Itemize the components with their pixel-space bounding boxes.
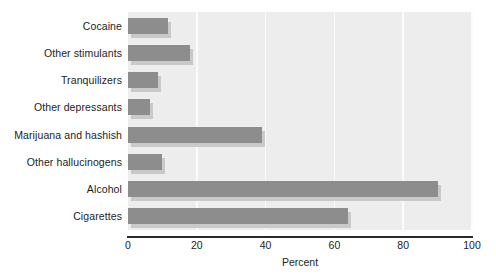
category-label: Cocaine	[0, 20, 122, 32]
category-label: Other depressants	[0, 101, 122, 113]
category-label: Tranquilizers	[0, 74, 122, 86]
plot-area	[128, 12, 472, 230]
gridline	[471, 12, 473, 230]
bar[interactable]	[128, 45, 190, 61]
x-tick-label: 0	[125, 239, 131, 252]
bar[interactable]	[128, 72, 158, 88]
value-axis: 020406080100	[0, 239, 496, 255]
x-tick-label: 40	[260, 239, 272, 252]
x-tick-label: 80	[397, 239, 409, 252]
bar[interactable]	[128, 99, 150, 115]
bar[interactable]	[128, 208, 348, 224]
bar[interactable]	[128, 181, 438, 197]
category-label: Marijuana and hashish	[0, 129, 122, 141]
category-label: Other stimulants	[0, 47, 122, 59]
x-tick-label: 100	[463, 239, 481, 252]
category-label: Cigarettes	[0, 210, 122, 222]
x-tick-label: 60	[329, 239, 341, 252]
category-axis: CocaineOther stimulantsTranquilizersOthe…	[0, 12, 122, 230]
bar-chart: CocaineOther stimulantsTranquilizersOthe…	[0, 0, 496, 275]
bar[interactable]	[128, 127, 262, 143]
x-tick-label: 20	[191, 239, 203, 252]
x-axis-title: Percent	[128, 256, 472, 269]
category-label: Other hallucinogens	[0, 156, 122, 168]
bar[interactable]	[128, 154, 162, 170]
category-label: Alcohol	[0, 183, 122, 195]
x-axis-line	[127, 236, 473, 238]
bar[interactable]	[128, 18, 168, 34]
